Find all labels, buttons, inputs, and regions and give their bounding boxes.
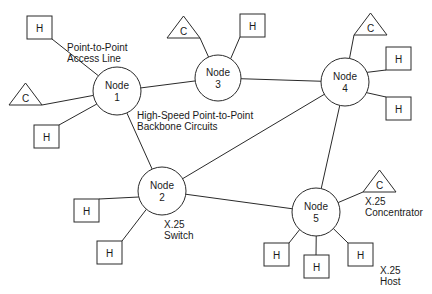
host-box: H bbox=[240, 14, 265, 37]
access-line-host-3 bbox=[367, 70, 386, 72]
host-box: H bbox=[386, 47, 411, 70]
access-line-label: Point-to-Point Access Line bbox=[67, 42, 128, 64]
node-label: Node bbox=[105, 80, 129, 91]
backbone-link-n2-n5 bbox=[186, 194, 292, 209]
host-box: H bbox=[386, 97, 411, 120]
concentrator-label: C bbox=[22, 93, 29, 104]
backbone-label-line1: High-Speed Point-to-Point bbox=[137, 110, 253, 121]
access-line-host-5 bbox=[99, 197, 139, 199]
concentrator-label-line1: X.25 bbox=[365, 196, 423, 207]
backbone-link-n2-n4 bbox=[183, 94, 325, 178]
concentrator-label-line2: Concentrator bbox=[365, 207, 423, 218]
access-line-host-6 bbox=[122, 209, 146, 241]
node-number: 1 bbox=[114, 92, 120, 103]
switch-node-5: Node5 bbox=[292, 188, 340, 236]
access-line-concentrator-3 bbox=[338, 192, 363, 203]
concentrator-label: C bbox=[367, 23, 374, 34]
concentrator: C bbox=[354, 13, 387, 35]
host-label: H bbox=[357, 250, 364, 261]
node-number: 2 bbox=[159, 192, 165, 203]
concentrator-label: C bbox=[376, 180, 383, 191]
node-circle-icon bbox=[138, 167, 186, 215]
node-circle-icon bbox=[292, 188, 340, 236]
host-box: H bbox=[74, 199, 99, 222]
concentrator: C bbox=[9, 83, 42, 105]
node-number: 3 bbox=[215, 79, 221, 90]
host-label: H bbox=[43, 132, 50, 143]
host-box: H bbox=[304, 255, 329, 278]
host-label-line2: Host bbox=[380, 276, 401, 287]
switch-node-4: Node4 bbox=[321, 58, 369, 106]
concentrator: C bbox=[363, 170, 396, 192]
access-line-concentrator-1 bbox=[200, 38, 209, 57]
concentrator: C bbox=[167, 16, 200, 38]
concentrator-label: C bbox=[180, 26, 187, 37]
access-line-host-4 bbox=[367, 93, 386, 97]
node-label: Node bbox=[333, 71, 357, 82]
node-circle-icon bbox=[321, 58, 369, 106]
access-line-host-2 bbox=[231, 37, 240, 59]
access-line-label-line2: Access Line bbox=[67, 53, 128, 64]
host-label: H bbox=[395, 54, 402, 65]
switch-node-1: Node1 bbox=[93, 67, 141, 115]
node-label: Node bbox=[304, 201, 328, 212]
host-box: H bbox=[27, 16, 52, 39]
node-number: 4 bbox=[342, 83, 348, 94]
switch-node-2: Node2 bbox=[138, 167, 186, 215]
host-box: H bbox=[34, 125, 59, 148]
host-box: H bbox=[97, 241, 122, 264]
node-label: Node bbox=[150, 180, 174, 191]
backbone-label-line2: Backbone Circuits bbox=[137, 121, 253, 132]
host-label: H bbox=[395, 104, 402, 115]
access-line-concentrator-0 bbox=[42, 95, 93, 105]
node-number: 5 bbox=[313, 213, 319, 224]
backbone-link-n4-n5 bbox=[321, 105, 340, 188]
host-label: H bbox=[249, 21, 256, 32]
node-label: Node bbox=[206, 67, 230, 78]
backbone-label: High-Speed Point-to-Point Backbone Circu… bbox=[137, 110, 253, 132]
host-label-line1: X.25 bbox=[380, 265, 401, 276]
network-diagram: HHHHHHHHHHCCCCNode1Node2Node3Node4Node5 bbox=[0, 0, 432, 294]
backbone-link-n3-n4 bbox=[241, 79, 321, 82]
host-label: X.25 Host bbox=[380, 265, 401, 287]
host-label: H bbox=[273, 250, 280, 261]
node-circle-icon bbox=[93, 67, 141, 115]
switch-label: X.25 Switch bbox=[164, 219, 193, 241]
host-label: H bbox=[36, 23, 43, 34]
switch-node-3: Node3 bbox=[195, 55, 241, 101]
host-label: H bbox=[83, 206, 90, 217]
switch-label-line2: Switch bbox=[164, 230, 193, 241]
access-line-label-line1: Point-to-Point bbox=[67, 42, 128, 53]
host-box: H bbox=[264, 243, 289, 266]
access-line-host-1 bbox=[59, 104, 97, 125]
concentrator-label: X.25 Concentrator bbox=[365, 196, 423, 218]
node-circle-icon bbox=[195, 55, 241, 101]
host-label: H bbox=[106, 248, 113, 259]
switch-label-line1: X.25 bbox=[164, 219, 193, 230]
access-line-host-7 bbox=[289, 230, 300, 243]
access-line-host-9 bbox=[333, 229, 348, 243]
backbone-link-n1-n3 bbox=[141, 81, 195, 88]
host-box: H bbox=[348, 243, 373, 266]
access-line-concentrator-2 bbox=[350, 35, 354, 58]
host-label: H bbox=[313, 262, 320, 273]
